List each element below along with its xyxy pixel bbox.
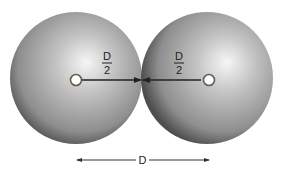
distance-label: D xyxy=(139,154,147,166)
left-radius-denominator: 2 xyxy=(104,64,110,76)
right-radius-denominator: 2 xyxy=(176,64,182,76)
left-center-marker xyxy=(71,75,82,86)
two-spheres-diagram: D 2 D 2 D xyxy=(0,0,281,171)
right-radius-numerator: D xyxy=(175,50,183,62)
left-radius-numerator: D xyxy=(103,50,111,62)
right-center-marker xyxy=(204,75,215,86)
